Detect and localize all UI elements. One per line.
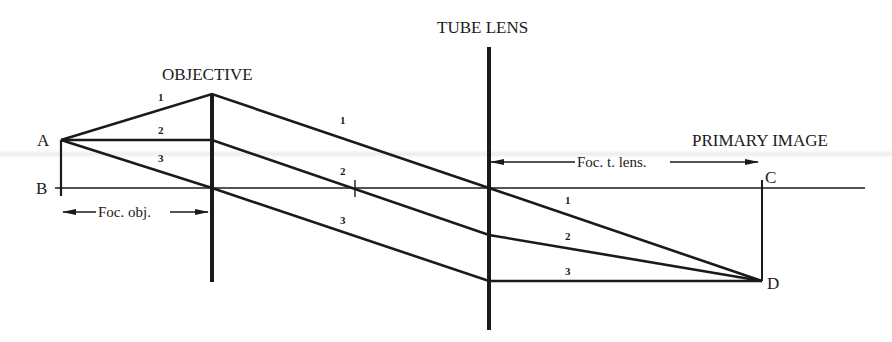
ray-label-obj-1: 1: [158, 91, 164, 103]
optical-ray-diagram: OBJECTIVE TUBE LENS PRIMARY IMAGE A B C …: [0, 0, 892, 342]
point-a-label: A: [37, 131, 50, 150]
tube-lens-label: TUBE LENS: [437, 18, 528, 37]
point-d-label: D: [767, 274, 779, 293]
ray-label-mid-2: 2: [340, 165, 346, 177]
ray-label-img-1: 1: [565, 194, 571, 206]
primary-image-label: PRIMARY IMAGE: [692, 131, 828, 150]
ray-label-img-2: 2: [565, 230, 571, 242]
foc-tube-lens-label: Foc. t. lens.: [577, 154, 647, 170]
objective-label: OBJECTIVE: [162, 65, 253, 84]
ray-label-img-3: 3: [565, 265, 571, 277]
foc-obj-label: Foc. obj.: [98, 204, 151, 220]
ray-label-mid-3: 3: [340, 214, 346, 226]
ray-label-obj-3: 3: [158, 152, 164, 164]
ray-label-obj-2: 2: [158, 124, 164, 136]
point-b-label: B: [36, 179, 47, 198]
ray-label-mid-1: 1: [340, 114, 346, 126]
point-c-label: C: [765, 168, 776, 187]
